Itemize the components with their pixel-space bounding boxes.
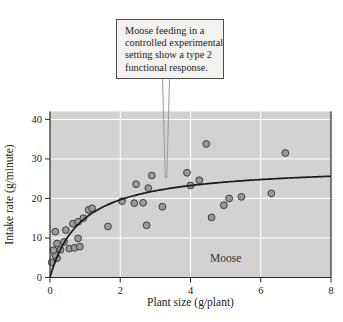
x-tick-label: 6 (258, 285, 263, 296)
data-point (75, 235, 82, 242)
data-point (203, 141, 210, 148)
callout-box: Moose feeding in a controlled experiment… (116, 19, 224, 79)
x-tick-label: 4 (188, 285, 194, 296)
y-axis-title: Intake rate (g/minute) (3, 144, 16, 244)
x-axis-title: Plant size (g/plant) (147, 296, 234, 309)
annotation-moose: Moose (210, 252, 241, 264)
x-tick-label: 2 (118, 285, 123, 296)
data-point (143, 222, 150, 229)
data-point (220, 202, 227, 209)
data-point (133, 181, 140, 188)
data-point (268, 190, 275, 197)
data-point (54, 240, 61, 247)
data-point (196, 177, 203, 184)
data-point (131, 200, 138, 207)
data-point (238, 193, 245, 200)
y-tick-label: 20 (32, 193, 43, 204)
y-tick-label: 30 (32, 153, 43, 164)
data-point (184, 169, 191, 176)
data-point (105, 223, 112, 230)
data-point (140, 199, 147, 206)
data-point (145, 185, 152, 192)
figure-moose-functional-response: 01020304002468Plant size (g/plant)Intake… (0, 0, 343, 322)
y-tick-label: 0 (37, 272, 42, 283)
data-point (159, 203, 166, 210)
callout-text-line: functional response. (125, 62, 219, 74)
data-point (148, 172, 155, 179)
data-point (208, 214, 215, 221)
data-point (52, 228, 59, 235)
data-point (282, 150, 289, 157)
data-point (226, 195, 233, 202)
callout-text-line: controlled experimental (125, 37, 219, 49)
callout-text-line: setting show a type 2 (125, 49, 219, 61)
x-tick-label: 0 (47, 285, 52, 296)
data-point (50, 247, 57, 254)
data-point (62, 227, 69, 234)
x-tick-label: 8 (328, 285, 333, 296)
callout-text-line: Moose feeding in a (125, 25, 219, 37)
y-tick-label: 10 (32, 232, 43, 243)
data-point (76, 243, 83, 250)
y-tick-label: 40 (32, 114, 43, 125)
